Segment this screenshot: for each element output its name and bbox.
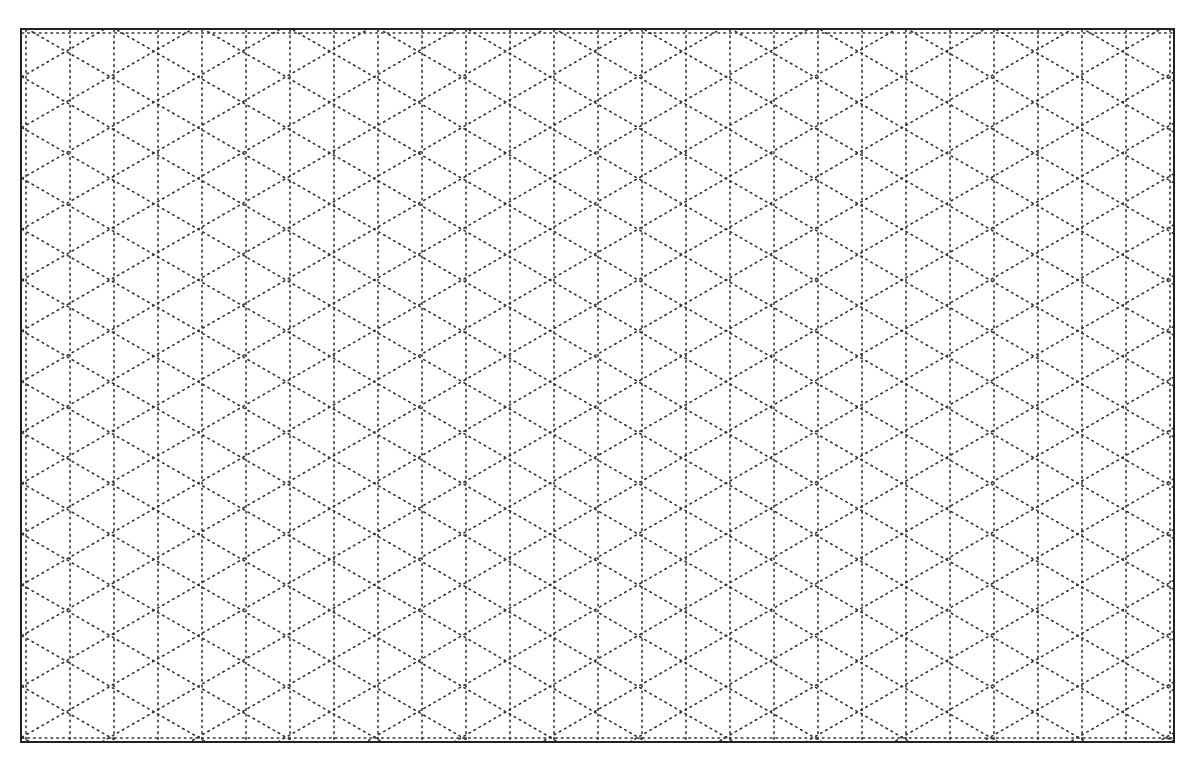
isometric-grid-sheet [20, 28, 1175, 743]
isometric-dot-grid [22, 30, 1173, 741]
